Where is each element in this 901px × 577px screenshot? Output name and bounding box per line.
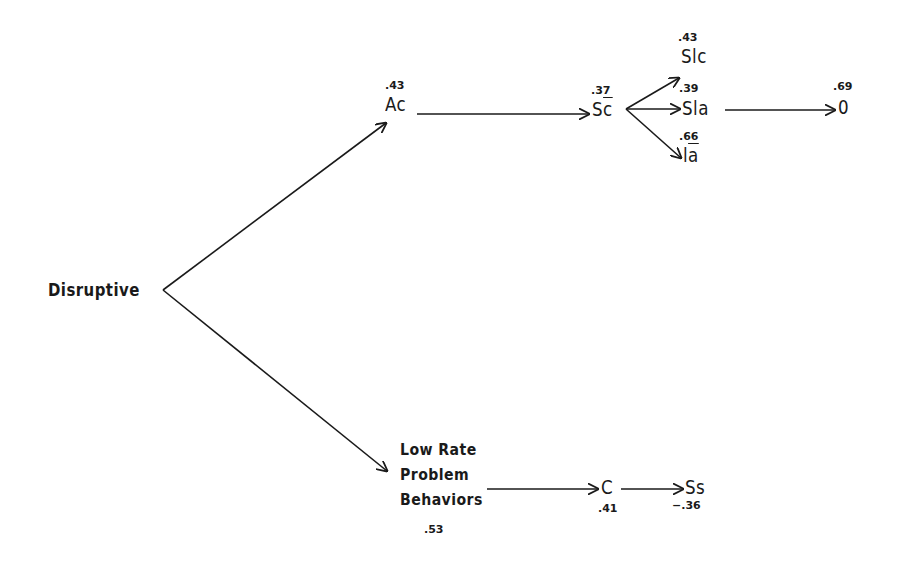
node-sla: Sla <box>682 99 709 118</box>
node-c-label: C <box>601 476 613 498</box>
node-ia-bar: la <box>683 146 699 165</box>
node-low-rate-line-2: Problem <box>400 462 483 487</box>
node-o-label: 0 <box>838 96 849 118</box>
node-ss: Ss <box>685 478 705 497</box>
node-sc-bar-barred: c <box>603 98 613 120</box>
node-slc: Slc <box>681 47 707 66</box>
coef-c: .41 <box>598 503 618 514</box>
coef-ac: .43 <box>385 80 405 91</box>
coef-slc: .43 <box>678 32 698 43</box>
node-low-rate-line-3: Behaviors <box>400 487 483 512</box>
edge-sc-to-slc <box>626 78 679 109</box>
node-c: C <box>601 478 613 497</box>
coef-ss: −.36 <box>672 500 701 511</box>
coef-sc-bar: .37 <box>591 85 611 96</box>
node-low-rate-line-1: Low Rate <box>400 437 483 462</box>
edge-sc-to-ia <box>626 109 681 158</box>
coef-sla: .39 <box>679 83 699 94</box>
node-ss-label: Ss <box>685 476 705 498</box>
edge-disruptive-to-ac <box>163 123 386 290</box>
node-ac: Ac <box>385 95 406 114</box>
coef-ia-bar: .66 <box>679 131 699 142</box>
node-ac-label: Ac <box>385 93 406 115</box>
node-low-rate-problem-behaviors: Low Rate Problem Behaviors <box>400 437 483 512</box>
coef-low-rate: .53 <box>424 524 444 535</box>
coef-o: .69 <box>833 81 853 92</box>
node-disruptive-label: Disruptive <box>48 280 140 300</box>
edge-disruptive-to-low-rate <box>163 290 387 471</box>
node-sc-bar-base: S <box>592 98 603 120</box>
node-slc-label: Slc <box>681 45 707 67</box>
node-sla-label: Sla <box>682 97 709 119</box>
node-disruptive: Disruptive <box>48 282 140 299</box>
node-sc-bar: Sc <box>592 100 613 119</box>
node-ia-bar-barred: a <box>688 144 699 166</box>
path-diagram: Disruptive .43 Ac .37 Sc .43 Slc .39 Sla… <box>0 0 901 577</box>
node-o: 0 <box>838 98 849 117</box>
